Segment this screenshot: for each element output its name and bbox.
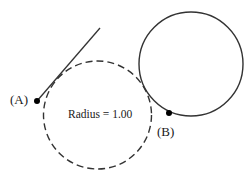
point-a-label: (A): [10, 92, 28, 107]
tangent-circles-diagram: (A) (B) Radius = 1.00: [0, 0, 250, 181]
solid-circle: [139, 12, 243, 116]
tangent-line: [37, 28, 100, 101]
point-a-dot: [34, 98, 40, 104]
radius-label: Radius = 1.00: [68, 108, 133, 120]
point-b-dot: [166, 110, 172, 116]
point-b-label: (B): [157, 124, 174, 139]
